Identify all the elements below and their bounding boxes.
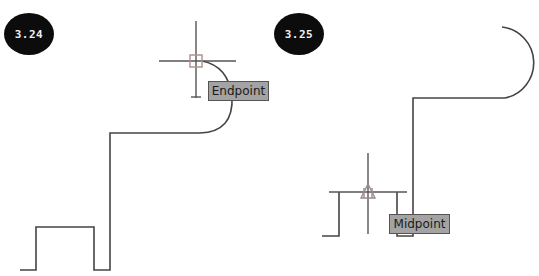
drawing-canvas <box>0 0 539 276</box>
figure-stage: 3.24 3.25 Endpoint Midpoint <box>0 0 539 276</box>
midpoint-snap-tooltip: Midpoint <box>389 214 450 234</box>
figure-number-badge-left: 3.24 <box>4 13 54 55</box>
figure-3-24-geometry <box>20 61 232 270</box>
snap-tooltip-text: Midpoint <box>394 217 446 231</box>
badge-label: 3.25 <box>285 28 314 41</box>
endpoint-snap-tooltip: Endpoint <box>208 81 269 101</box>
figure-3-25-geometry <box>322 27 534 236</box>
figure-number-badge-right: 3.25 <box>274 13 324 55</box>
left-profile-polyline <box>20 133 200 270</box>
snap-tooltip-text: Endpoint <box>212 84 265 98</box>
right-left-segment <box>322 192 339 236</box>
right-arc <box>502 27 534 98</box>
badge-label: 3.24 <box>15 28 44 41</box>
